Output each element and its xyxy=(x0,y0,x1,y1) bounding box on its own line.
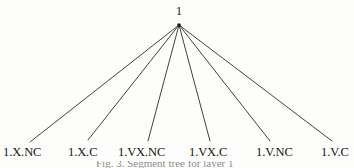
tree-edge xyxy=(179,25,270,141)
tree-edge xyxy=(88,25,179,140)
figure-caption-clip: Fig. 3. Segment tree for layer 1 xyxy=(0,161,354,168)
leaf-node-label: 1.VX.NC xyxy=(118,146,165,159)
figure-caption: Fig. 3. Segment tree for layer 1 xyxy=(96,161,233,168)
leaf-node-label: 1.V.NC xyxy=(256,146,293,159)
tree-edge xyxy=(179,25,210,141)
root-node-label: 1 xyxy=(176,5,182,17)
tree-diagram-figure: 1 1.X.NC1.X.C1.VX.NC1.VX.C1.V.NC1.V.C Fi… xyxy=(0,0,354,168)
root-junction-dot xyxy=(177,23,181,27)
tree-edge xyxy=(179,25,332,141)
leaf-node-label: 1.X.NC xyxy=(3,146,41,159)
tree-edges-canvas xyxy=(0,0,354,168)
tree-edge xyxy=(30,25,179,142)
edge-group xyxy=(30,25,332,142)
tree-edge xyxy=(148,25,179,141)
leaf-node-label: 1.VX.C xyxy=(189,146,227,159)
leaf-node-label: 1.X.C xyxy=(68,146,97,159)
leaf-node-label: 1.V.C xyxy=(321,146,349,159)
